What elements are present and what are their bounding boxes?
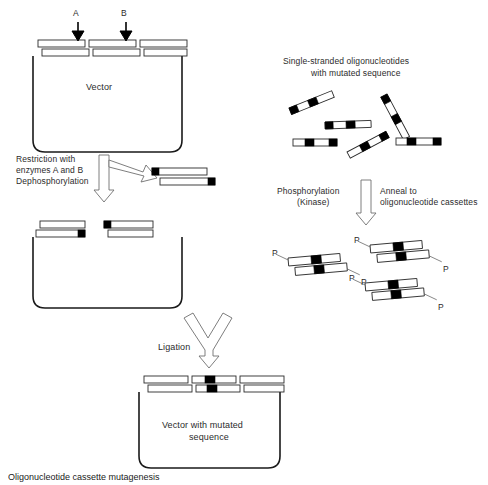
single-stranded-oligo-6 (396, 138, 441, 145)
restriction-step-line2: enzymes A and B (16, 165, 83, 176)
ligation-merge-arrow (184, 313, 232, 368)
phosphorylation-line2: (Kinase) (297, 197, 329, 208)
final-vector-line2: sequence (189, 432, 229, 443)
restriction-step-line3: Dephosphorylation (16, 176, 89, 187)
site-b-label: B (121, 8, 127, 19)
phosphate-label-3a: P (349, 273, 355, 284)
single-stranded-oligo-4 (347, 131, 389, 158)
restriction-site-arrow-a (72, 22, 84, 41)
diagram-canvas: .pl{fill:none;stroke:#1a1a1a;stroke-widt… (0, 0, 488, 485)
anneal-line1: Anneal to (380, 186, 417, 197)
ligation-label: Ligation (158, 342, 190, 353)
restriction-branch-arrow (109, 160, 157, 182)
excised-fragment-strands (152, 168, 215, 185)
phosphate-label-3b: P (438, 302, 444, 313)
diagram-vector-graphics: .pl{fill:none;stroke:#1a1a1a;stroke-widt… (0, 0, 488, 485)
single-stranded-oligo-1 (289, 91, 334, 115)
final-vector-line1: Vector with mutated (162, 420, 243, 431)
figure-caption: Oligonucleotide cassette mutagenesis (8, 472, 160, 482)
single-stranded-oligo-3 (293, 139, 337, 146)
oligos-caption-line1: Single-stranded oligonucleotides (283, 56, 409, 67)
phosphate-label-1a: P (272, 248, 278, 259)
single-stranded-oligo-2 (325, 120, 371, 129)
phosphorylation-line1: Phosphorylation (277, 186, 339, 197)
oligo-cassette-2 (358, 234, 442, 269)
phosphate-label-1b: P (361, 277, 367, 288)
phosphate-label-2b: P (443, 264, 449, 275)
original-vector-plasmid (33, 40, 187, 152)
anneal-line2: oligonucleotide cassettes (380, 197, 477, 208)
restriction-step-line1: Restriction with (16, 154, 75, 165)
vector-label: Vector (86, 82, 112, 93)
oligo-cassette-1 (276, 247, 360, 282)
restriction-site-arrow-b (120, 22, 132, 41)
site-a-label: A (73, 8, 79, 19)
oligos-caption-line2: with mutated sequence (311, 68, 401, 79)
phosphate-label-2a: P (354, 235, 360, 246)
phosphorylation-down-arrow (356, 180, 376, 225)
cut-vector-plasmid (33, 221, 182, 308)
